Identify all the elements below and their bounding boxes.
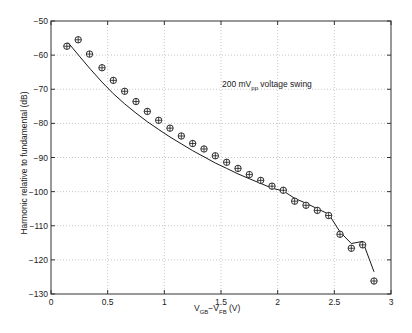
- y-tick-label: −110: [29, 221, 48, 231]
- data-point-marker: [99, 65, 105, 71]
- data-point-marker: [235, 165, 241, 171]
- data-point-marker: [280, 187, 286, 193]
- annotation-text-pre: 200 mV: [222, 79, 252, 89]
- y-tick-label: −100: [29, 187, 48, 197]
- data-point-marker: [86, 51, 92, 57]
- data-point-marker: [314, 207, 320, 213]
- data-point-marker: [155, 117, 161, 123]
- y-tick-label: −50: [34, 16, 49, 26]
- data-point-marker: [325, 212, 331, 218]
- x-tick-label: 2: [275, 297, 280, 307]
- data-point-marker: [212, 153, 218, 159]
- data-point-marker: [167, 125, 173, 131]
- data-point-marker: [178, 133, 184, 139]
- x-label-sub-fb: FB: [219, 309, 227, 315]
- x-tick-label: 0.5: [102, 297, 114, 307]
- data-point-marker: [144, 108, 150, 114]
- data-point-marker: [371, 278, 377, 284]
- data-point-marker: [121, 88, 127, 94]
- x-tick-label: 1: [162, 297, 167, 307]
- annotation-text-post: voltage swing: [258, 79, 312, 89]
- chart-background: [0, 0, 412, 333]
- data-point-marker: [246, 171, 252, 177]
- data-point-marker: [257, 177, 263, 183]
- data-point-marker: [223, 159, 229, 165]
- y-tick-label: −60: [34, 50, 49, 60]
- data-point-marker: [189, 140, 195, 146]
- x-tick-label: 0: [49, 297, 54, 307]
- data-point-marker: [133, 98, 139, 104]
- chart: 00.511.522.53 −50−60−70−80−90−100−110−12…: [0, 0, 412, 333]
- data-point-marker: [291, 198, 297, 204]
- data-point-marker: [359, 242, 365, 248]
- data-point-marker: [348, 245, 354, 251]
- data-point-marker: [337, 231, 343, 237]
- data-point-marker: [64, 43, 70, 49]
- x-label-unit: (V): [227, 303, 241, 313]
- y-tick-label: −70: [34, 84, 49, 94]
- y-tick-label: −90: [34, 153, 49, 163]
- x-label-v2: −V: [208, 303, 219, 313]
- data-point-marker: [110, 77, 116, 83]
- y-axis-label: Harmonic relative to fundamental (dB): [19, 91, 29, 234]
- x-label-sub-gb: GB: [200, 309, 209, 315]
- data-point-marker: [201, 146, 207, 152]
- data-point-marker: [269, 183, 275, 189]
- data-point-marker: [75, 37, 81, 43]
- x-tick-label: 2.5: [328, 297, 340, 307]
- data-point-marker: [303, 202, 309, 208]
- y-tick-label: −80: [34, 118, 49, 128]
- y-tick-label: −120: [29, 255, 48, 265]
- y-tick-label: −130: [29, 289, 48, 299]
- x-tick-label: 3: [389, 297, 394, 307]
